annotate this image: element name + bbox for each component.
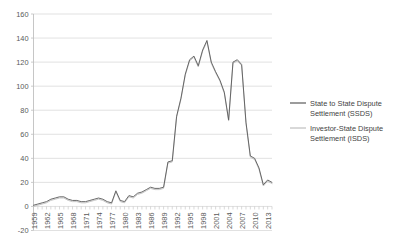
- legend: State to State DisputeSettlement (SSDS)I…: [290, 99, 383, 143]
- x-tick-label: 1998: [199, 212, 208, 228]
- x-axis-ticks: [34, 206, 273, 209]
- x-tick-label: 2001: [212, 212, 221, 228]
- y-tick-label: 20: [20, 178, 28, 187]
- x-tick-label: 1968: [69, 212, 78, 228]
- y-tick-label: 60: [20, 130, 28, 139]
- x-tick-label: 1980: [121, 212, 130, 228]
- x-tick-label: 2004: [225, 212, 234, 228]
- legend-label-line1: Investor-State Dispute: [310, 124, 383, 133]
- y-tick-label: 140: [16, 34, 28, 43]
- x-tick-label: 1977: [108, 212, 117, 228]
- x-tick-label: 1986: [147, 212, 156, 228]
- x-tick-label: 2010: [251, 212, 260, 228]
- y-tick-label: 120: [16, 58, 28, 67]
- series-line: [34, 40, 273, 205]
- x-tick-label: 1992: [173, 212, 182, 228]
- chart-container: 160140120100806040200-201959196219651968…: [0, 0, 399, 246]
- x-tick-label: 1974: [95, 212, 104, 228]
- legend-label-line2: Settlement (ISDS): [310, 134, 370, 143]
- x-tick-label: 1971: [82, 212, 91, 228]
- x-tick-label: 1959: [30, 212, 39, 228]
- x-tick-label: 2013: [264, 212, 273, 228]
- legend-label-line1: State to State Dispute: [310, 99, 382, 108]
- x-axis-labels: 1959196219651968197119741977198019831986…: [30, 212, 273, 228]
- x-tick-label: 1989: [160, 212, 169, 228]
- x-tick-label: 1995: [186, 212, 195, 228]
- y-tick-label: 40: [20, 154, 28, 163]
- series-group: [34, 40, 273, 206]
- series-line: [34, 42, 273, 207]
- y-tick-label: -20: [18, 226, 29, 235]
- x-tick-label: 1983: [134, 212, 143, 228]
- legend-label-line2: Settlement (SSDS): [310, 109, 372, 118]
- line-chart: 160140120100806040200-201959196219651968…: [0, 0, 399, 246]
- y-tick-label: 0: [24, 202, 28, 211]
- x-tick-label: 2007: [238, 212, 247, 228]
- y-axis-labels: 160140120100806040200-20: [16, 10, 33, 236]
- y-tick-label: 100: [16, 82, 28, 91]
- x-tick-label: 1962: [43, 212, 52, 228]
- y-tick-label: 80: [20, 106, 28, 115]
- y-tick-label: 160: [16, 10, 28, 19]
- gridlines: [34, 14, 273, 231]
- x-tick-label: 1965: [56, 212, 65, 228]
